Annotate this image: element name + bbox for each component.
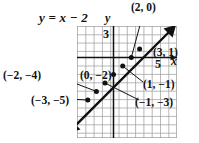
coordinate-plane-figure: y = x − 2 y x 3 5 (2, 0) (3, 1) (−2, −4)…: [0, 0, 199, 143]
point-label-0-minus2: (0, −2): [80, 70, 111, 82]
x-axis-tick-label-5: 5: [155, 58, 161, 70]
leader-lines: [77, 26, 143, 100]
point-label-minus1-minus3: (−1, −3): [135, 97, 173, 109]
point-label-2-0: (2, 0): [131, 2, 156, 14]
point-label-3-1: (3, 1): [153, 47, 178, 59]
y-axis-label: y: [105, 12, 110, 24]
marker-m2-m4: [94, 89, 99, 94]
leader-2-0: [131, 26, 143, 58]
marker-3-1: [137, 46, 142, 51]
point-label-minus3-minus5: (−3, −5): [31, 95, 69, 107]
y-axis-tick-label-3: 3: [103, 28, 109, 40]
point-label-minus2-minus4: (−2, −4): [3, 70, 41, 82]
point-label-1-minus1: (1, −1): [143, 79, 174, 91]
equation-label: y = x − 2: [39, 11, 88, 24]
marker-0-m2: [111, 72, 116, 77]
